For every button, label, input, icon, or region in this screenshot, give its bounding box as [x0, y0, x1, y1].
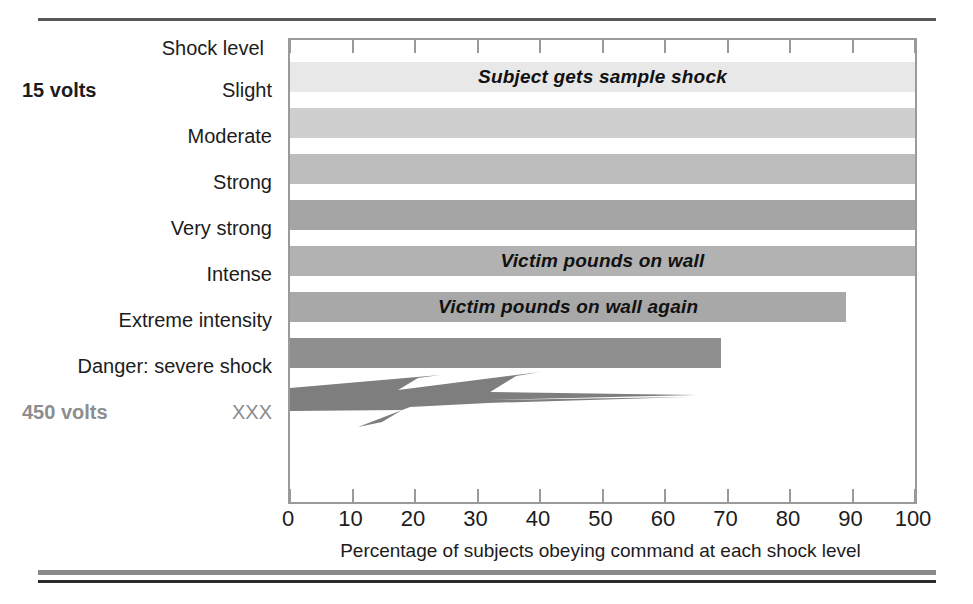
- x-axis-tick-top-60: [664, 40, 666, 53]
- bar-intense: Victim pounds on wall: [290, 246, 915, 276]
- category-label-danger-severe-shock: Danger: severe shock: [0, 343, 280, 389]
- x-axis-tick-bottom-20: [414, 489, 416, 502]
- x-axis-tick-label: 90: [838, 506, 862, 532]
- x-axis-tick-top-100: [914, 40, 916, 53]
- category-label-extreme-intensity: Extreme intensity: [0, 297, 280, 343]
- x-axis-tick-labels: 0102030405060708090100: [288, 506, 913, 538]
- x-axis-tick-top-0: [289, 40, 291, 53]
- category-label-moderate: Moderate: [0, 113, 280, 159]
- x-axis-tick-top-70: [727, 40, 729, 53]
- x-axis-tick-bottom-30: [477, 489, 479, 502]
- lightning-bolt-mark: [290, 370, 696, 430]
- plot-area: Subject gets sample shockVictim pounds o…: [288, 38, 917, 504]
- x-axis-tick-label: 100: [895, 506, 932, 532]
- x-axis-tick-label: 20: [401, 506, 425, 532]
- x-axis-tick-bottom-60: [664, 489, 666, 502]
- bar-annotation: Victim pounds on wall again: [438, 296, 698, 318]
- category-label-column: Shock level Slight15 voltsModerateStrong…: [0, 30, 280, 500]
- bar-chart-figure: Shock level Slight15 voltsModerateStrong…: [0, 0, 973, 604]
- x-axis-tick-top-10: [352, 40, 354, 53]
- bar-danger-severe-shock: [290, 338, 721, 368]
- x-axis-tick-top-90: [852, 40, 854, 53]
- x-axis-tick-top-40: [539, 40, 541, 53]
- x-axis-tick-bottom-90: [852, 489, 854, 502]
- bar-very-strong: [290, 200, 915, 230]
- bar-slight: Subject gets sample shock: [290, 62, 915, 92]
- x-axis-tick-label: 40: [526, 506, 550, 532]
- x-axis-tick-bottom-70: [727, 489, 729, 502]
- plot-inner: Subject gets sample shockVictim pounds o…: [290, 40, 915, 502]
- bar-extreme-intensity: Victim pounds on wall again: [290, 292, 846, 322]
- voltage-tag-450-volts: 450 volts: [22, 389, 172, 435]
- voltage-tag-15-volts: 15 volts: [22, 67, 172, 113]
- x-axis-tick-bottom-10: [352, 489, 354, 502]
- bar-strong: [290, 154, 915, 184]
- x-axis-tick-bottom-40: [539, 489, 541, 502]
- x-axis-tick-top-80: [789, 40, 791, 53]
- x-axis-tick-label: 60: [651, 506, 675, 532]
- category-label-very-strong: Very strong: [0, 205, 280, 251]
- bar-moderate: [290, 108, 915, 138]
- bar-annotation: Subject gets sample shock: [478, 66, 727, 88]
- shock-level-heading: Shock level: [0, 30, 272, 66]
- x-axis-tick-bottom-100: [914, 489, 916, 502]
- x-axis-tick-label: 50: [588, 506, 612, 532]
- x-axis-tick-label: 80: [776, 506, 800, 532]
- bar-annotation: Victim pounds on wall: [500, 250, 704, 272]
- x-axis-tick-top-20: [414, 40, 416, 53]
- x-axis-title: Percentage of subjects obeying command a…: [288, 540, 913, 562]
- x-axis-tick-bottom-0: [289, 489, 291, 502]
- x-axis-tick-top-50: [602, 40, 604, 53]
- x-axis-tick-top-30: [477, 40, 479, 53]
- x-axis-tick-bottom-50: [602, 489, 604, 502]
- category-label-intense: Intense: [0, 251, 280, 297]
- x-axis-tick-bottom-80: [789, 489, 791, 502]
- x-axis-tick-label: 10: [338, 506, 362, 532]
- x-axis-tick-label: 0: [282, 506, 294, 532]
- x-axis-tick-label: 30: [463, 506, 487, 532]
- category-label-strong: Strong: [0, 159, 280, 205]
- x-axis-tick-label: 70: [713, 506, 737, 532]
